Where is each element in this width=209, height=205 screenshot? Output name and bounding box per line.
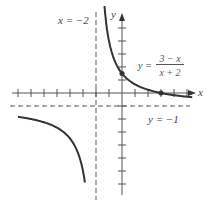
horizontal-asymptote-label: y = −1	[148, 113, 179, 125]
x-axis-label: x	[198, 86, 203, 98]
equation-prefix: y =	[138, 60, 152, 71]
curve-right-branch	[105, 6, 193, 97]
y-axis-arrow-icon	[119, 13, 125, 21]
y-axis-label: y	[111, 8, 116, 20]
y-intercept-point	[120, 71, 125, 76]
equation-denominator: x + 2	[156, 67, 184, 78]
graph	[0, 0, 209, 205]
x-intercept-point	[159, 91, 164, 96]
curve-left-branch	[18, 117, 85, 183]
vertical-asymptote-label: x = −2	[58, 14, 89, 26]
equation-numerator: 3 − x	[156, 53, 184, 65]
x-axis-arrow-icon	[188, 90, 196, 96]
